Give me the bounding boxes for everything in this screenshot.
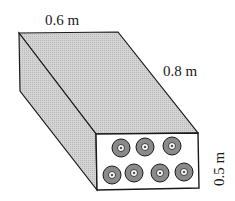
height-label: 0.5 m <box>211 152 227 187</box>
width-label: 0.6 m <box>45 12 80 28</box>
tube-icon <box>136 138 154 156</box>
duct-diagram: 0.6 m 0.8 m 0.5 m <box>0 0 235 201</box>
length-label: 0.8 m <box>163 63 198 79</box>
tube-icon <box>151 164 169 182</box>
tube-icon <box>175 163 193 181</box>
tube-icon <box>112 139 130 157</box>
tube-icon <box>125 164 143 182</box>
tube-row-top <box>112 137 181 157</box>
tube-icon <box>103 166 121 184</box>
tube-icon <box>163 137 181 155</box>
